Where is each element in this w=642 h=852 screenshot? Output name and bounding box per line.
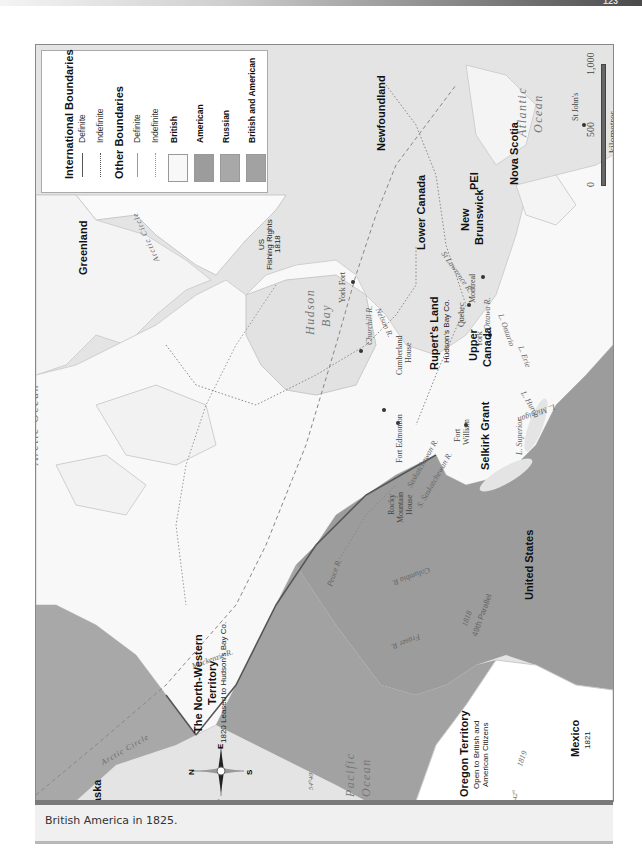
map: International Boundaries Definite Indefi… xyxy=(35,44,614,802)
scale-tick-0: 0 xyxy=(586,182,597,187)
legend-other-indefinite: Indefinite xyxy=(151,109,160,144)
scale-tick-1000: 1,000 xyxy=(586,53,597,76)
label-hudson-1: Hudson xyxy=(304,289,317,335)
compass-s: S xyxy=(246,770,254,775)
legend-british-american: British and American xyxy=(248,58,257,143)
label-rocky-3: House xyxy=(406,495,414,515)
scale-unit: kilometres xyxy=(608,111,614,153)
label-oregon-territory: Oregon Territory xyxy=(459,710,471,797)
label-l-superior: L. Superior xyxy=(516,419,524,455)
label-us-fishing-3: 1818 xyxy=(274,235,282,253)
label-oregon-sub-2: American Citizens xyxy=(482,723,490,787)
legend-indefinite-line xyxy=(100,153,101,177)
label-fort-william-2: William xyxy=(463,419,471,445)
label-pacific-1: Pacific xyxy=(344,753,357,797)
label-alaska: Alaska xyxy=(92,780,104,802)
label-greenland: Greenland xyxy=(78,221,90,275)
compass-e: E xyxy=(217,744,225,749)
page-header-bar: 123 xyxy=(0,0,642,6)
label-newfoundland: Newfoundland xyxy=(376,75,388,151)
label-ruperts-land: Rupert's Land xyxy=(429,296,441,370)
label-atlantic-2: Ocean xyxy=(532,94,545,133)
label-selkirk-grant: Selkirk Grant xyxy=(480,402,492,470)
label-arctic-ocean: Arctic Ocean xyxy=(35,384,41,465)
label-lat-42: 42° xyxy=(512,790,519,800)
compass-n: N xyxy=(188,769,196,775)
legend-heading-international: International Boundaries xyxy=(64,49,76,179)
label-nw-territory-1: The North-Western xyxy=(193,634,205,733)
compass-rose: N S E W xyxy=(186,741,256,801)
legend-intl-indefinite: Indefinite xyxy=(96,109,105,144)
label-ruperts-land-sub: Hudson's Bay Co. xyxy=(443,299,451,363)
label-hudson-2: Bay xyxy=(320,304,333,327)
legend-other-indefinite-line xyxy=(155,153,156,177)
label-lat-54-40: 54°40' xyxy=(308,772,315,790)
legend-american: American xyxy=(196,104,205,143)
legend-other-definite-line xyxy=(137,153,138,177)
label-lower-canada: Lower Canada xyxy=(416,175,428,250)
figure-caption: British America in 1825. xyxy=(45,814,178,827)
legend-british: British xyxy=(170,116,179,143)
label-nw-territory-sub: 1820 Leased to Hudson's Bay Co. xyxy=(220,622,228,743)
label-new-brunswick-1: New xyxy=(460,208,472,231)
scale-bar-line xyxy=(601,64,606,186)
label-quebec: Quebec xyxy=(458,303,466,327)
label-york: York xyxy=(476,331,484,347)
label-fort-edmonton: Fort Edmonton xyxy=(396,414,404,463)
scale-tick-500: 500 xyxy=(586,122,597,137)
label-mexico-sub: 1821 xyxy=(584,731,592,749)
page-number: 123 xyxy=(603,0,618,6)
label-mexico: Mexico xyxy=(570,720,582,757)
legend-heading-other: Other Boundaries xyxy=(114,86,126,179)
label-york-fort: York Fort xyxy=(339,272,347,303)
legend-russian: Russian xyxy=(222,110,231,143)
label-nova-scotia: Nova Scotia xyxy=(509,122,521,185)
label-ottawa-r: Ottawa R. xyxy=(484,298,492,330)
label-cumberland-2: House xyxy=(405,343,413,363)
legend-swatch-british xyxy=(168,154,188,182)
label-pacific-2: Ocean xyxy=(360,758,373,797)
legend-other-definite: Definite xyxy=(133,114,142,143)
label-new-brunswick-2: Brunswick xyxy=(474,189,486,245)
legend-intl-definite: Definite xyxy=(78,114,87,143)
label-united-states: United States xyxy=(524,530,536,600)
legend-swatch-russian xyxy=(220,154,240,182)
label-nw-territory-2: Territory xyxy=(207,661,219,705)
label-pei: PEI xyxy=(469,172,481,190)
legend-definite-line xyxy=(82,153,83,177)
map-legend: International Boundaries Definite Indefi… xyxy=(41,50,268,193)
legend-swatch-american xyxy=(194,154,214,182)
legend-swatch-british-american xyxy=(246,154,266,182)
label-st-johns: St John's xyxy=(572,93,580,121)
caption-bar: British America in 1825. xyxy=(35,805,613,844)
